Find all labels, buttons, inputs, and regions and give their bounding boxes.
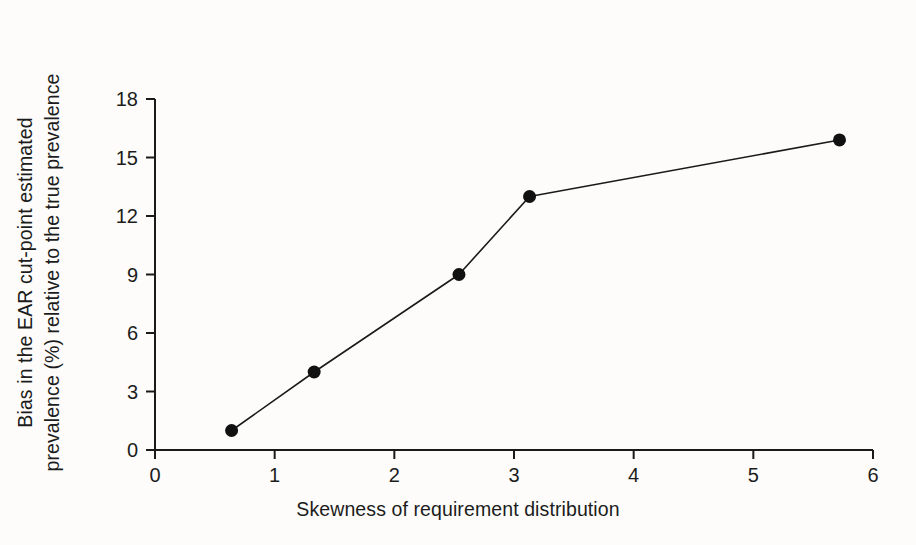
y-tick-label: 0 [127,439,138,461]
x-tick-label: 2 [389,464,400,486]
y-axis-ticks: 0369121518 [116,88,155,461]
data-point-marker [523,190,536,203]
x-tick-label: 5 [748,464,759,486]
y-tick-label: 12 [116,205,138,227]
data-point-marker [308,366,321,379]
series-markers [225,133,846,437]
x-axis-ticks: 0123456 [149,450,878,486]
x-tick-label: 0 [149,464,160,486]
x-tick-label: 3 [508,464,519,486]
x-axis-label: Skewness of requirement distribution [0,498,916,521]
y-tick-label: 3 [127,381,138,403]
data-point-marker [833,133,846,146]
x-tick-label: 1 [269,464,280,486]
y-tick-label: 9 [127,264,138,286]
y-tick-label: 6 [127,322,138,344]
data-series [225,133,846,437]
y-tick-label: 15 [116,147,138,169]
x-tick-label: 6 [867,464,878,486]
axes [155,99,873,450]
series-line [232,140,840,431]
line-chart-canvas: 0369121518 0123456 [0,0,916,545]
chart-figure: 0369121518 0123456 Bias in the EAR cut-p… [0,0,916,545]
data-point-marker [452,268,465,281]
data-point-marker [225,424,238,437]
y-tick-label: 18 [116,88,138,110]
x-tick-label: 4 [628,464,639,486]
